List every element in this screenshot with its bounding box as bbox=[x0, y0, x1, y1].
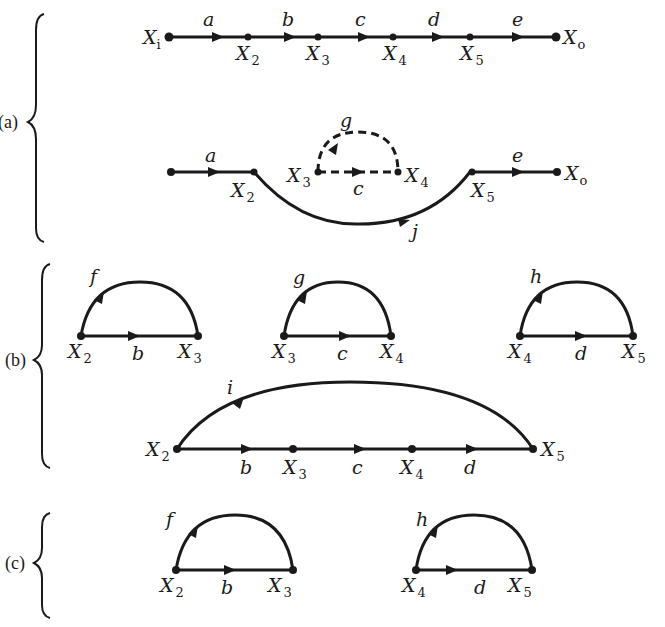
node-label-x4: X4 bbox=[400, 574, 426, 600]
part-a-reduced: a X2 j g c X3 X4 e X5 Xo bbox=[167, 109, 588, 242]
node-label-x4: X4 bbox=[398, 456, 424, 482]
edge-label-h: h bbox=[530, 265, 542, 287]
part-c-loop-f: f b X2 X3 bbox=[158, 508, 297, 600]
node-xo bbox=[553, 168, 561, 176]
node-x4 bbox=[387, 332, 395, 340]
part-b-loop-g: g c X3 X4 bbox=[270, 266, 404, 366]
edge-label-c: c bbox=[337, 342, 348, 364]
node-x2 bbox=[245, 34, 252, 41]
node-x5 bbox=[529, 445, 537, 453]
node-label-x3: X3 bbox=[304, 42, 330, 68]
edge-label-f: f bbox=[164, 508, 176, 530]
node-label-x4: X4 bbox=[403, 164, 429, 190]
node-label-x5: X5 bbox=[620, 340, 646, 366]
node-x4 bbox=[408, 445, 416, 453]
edge-label-e: e bbox=[512, 144, 523, 166]
edge-label-d: d bbox=[474, 576, 486, 598]
node-xo bbox=[552, 33, 561, 42]
node-x5 bbox=[629, 332, 637, 340]
edge-label-f: f bbox=[88, 265, 100, 287]
node-label-x5: X5 bbox=[539, 438, 565, 464]
part-b-loop-h: h d X4 X5 bbox=[506, 265, 646, 366]
edge-label-g: g bbox=[340, 109, 352, 131]
edge-label-e: e bbox=[512, 8, 523, 30]
node-x3 bbox=[289, 566, 297, 574]
node-label-x5: X5 bbox=[458, 42, 484, 68]
node-x5 bbox=[469, 169, 476, 176]
node-label-x2: X2 bbox=[66, 340, 92, 366]
edge-label-g: g bbox=[293, 266, 305, 288]
edge-label-d: d bbox=[428, 8, 440, 30]
node-label-xo: Xo bbox=[563, 162, 588, 188]
node-label-x2: X2 bbox=[234, 42, 260, 68]
node-x3 bbox=[280, 332, 288, 340]
node-x4 bbox=[390, 34, 397, 41]
node-label-xi: Xi bbox=[141, 26, 161, 52]
node-label-x3: X3 bbox=[176, 340, 202, 366]
node-xi bbox=[165, 33, 174, 42]
node-label-x3: X3 bbox=[270, 340, 296, 366]
node-label-x2: X2 bbox=[229, 179, 255, 205]
node-label-x2: X2 bbox=[144, 438, 170, 464]
part-c-label: (c) bbox=[5, 553, 25, 574]
node-x4 bbox=[395, 169, 402, 176]
edge-label-a: a bbox=[203, 8, 214, 30]
edge-label-b: b bbox=[282, 8, 294, 30]
part-b-bracket: (b) bbox=[5, 264, 50, 468]
part-b-loop-i: i b c d X2 X3 X4 X5 bbox=[144, 376, 565, 482]
part-c-bracket: (c) bbox=[5, 513, 50, 618]
part-b-label: (b) bbox=[5, 350, 26, 371]
edge-label-h: h bbox=[416, 508, 428, 530]
edge-label-b: b bbox=[132, 342, 144, 364]
node-x4 bbox=[516, 332, 524, 340]
edge-label-b: b bbox=[240, 456, 252, 478]
part-b-loop-f: f b X2 X3 bbox=[66, 265, 202, 366]
part-c-loop-h: h d X4 X5 bbox=[400, 508, 536, 600]
part-a-label: (a) bbox=[0, 112, 18, 133]
node-x2 bbox=[172, 566, 180, 574]
node-x3 bbox=[315, 169, 322, 176]
node-label-x2: X2 bbox=[158, 574, 184, 600]
node-x5 bbox=[467, 34, 474, 41]
edge-label-b: b bbox=[221, 576, 233, 598]
node-label-x4: X4 bbox=[381, 42, 407, 68]
node-label-x3: X3 bbox=[281, 456, 307, 482]
node-start bbox=[167, 168, 175, 176]
node-x2 bbox=[77, 332, 85, 340]
part-a-chain: a b c d e Xi X2 X3 X4 X5 Xo bbox=[141, 8, 586, 68]
node-x2 bbox=[173, 445, 181, 453]
node-x3 bbox=[315, 34, 322, 41]
edge-label-j: j bbox=[408, 220, 418, 242]
node-label-x3: X3 bbox=[266, 574, 292, 600]
edge-label-c: c bbox=[352, 456, 363, 478]
node-x3 bbox=[289, 445, 297, 453]
node-x3 bbox=[194, 332, 202, 340]
edge-label-c: c bbox=[355, 8, 366, 30]
node-label-x4: X4 bbox=[378, 340, 404, 366]
node-label-xo: Xo bbox=[561, 26, 586, 52]
edge-label-i: i bbox=[227, 376, 233, 398]
node-label-x5: X5 bbox=[506, 574, 532, 600]
edge-label-d: d bbox=[575, 342, 587, 364]
node-label-x4: X4 bbox=[506, 340, 532, 366]
signal-flow-figure: (a) (b) (c) a b c d e Xi X2 X3 X4 X5 bbox=[0, 0, 665, 627]
node-label-x3: X3 bbox=[285, 164, 311, 190]
edge-label-d: d bbox=[464, 456, 476, 478]
edge-label-a: a bbox=[205, 144, 216, 166]
node-x5 bbox=[528, 566, 536, 574]
edge-label-c: c bbox=[353, 177, 364, 199]
node-x4 bbox=[412, 566, 420, 574]
node-label-x5: X5 bbox=[469, 179, 495, 205]
part-a-bracket: (a) bbox=[0, 14, 44, 242]
